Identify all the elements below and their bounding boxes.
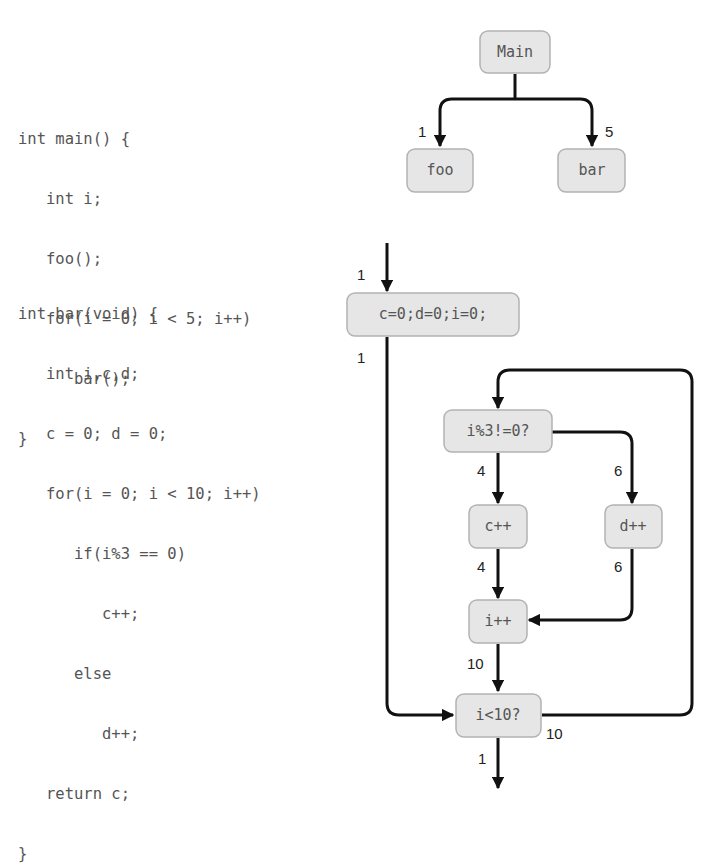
code-line: } — [18, 844, 261, 864]
edge-count-entry: 1 — [357, 266, 365, 283]
node-inc-i: i++ — [469, 600, 527, 643]
node-cond-mod: i%3!=0? — [444, 410, 552, 452]
edge-count-mod-c: 4 — [477, 462, 485, 479]
cfg-edge-init-cond — [387, 337, 453, 715]
node-init: c=0;d=0;i=0; — [347, 293, 519, 336]
edge-count-inc-cond: 10 — [467, 655, 484, 672]
edge-count-init-cond: 1 — [357, 349, 365, 366]
call-edge-main-bar — [515, 99, 592, 146]
node-label: c++ — [484, 517, 511, 535]
node-label: foo — [426, 161, 453, 179]
node-label: i<10? — [475, 706, 520, 724]
node-main: Main — [480, 31, 550, 73]
node-label: bar — [578, 161, 605, 179]
node-label: d++ — [619, 517, 646, 535]
node-cond-loop: i<10? — [456, 694, 541, 737]
node-bar: bar — [558, 149, 625, 192]
node-label: c=0;d=0;i=0; — [379, 305, 487, 323]
node-foo: foo — [407, 149, 473, 192]
edge-count-c-i: 4 — [477, 558, 485, 575]
node-inc-d: d++ — [605, 505, 662, 548]
node-label: Main — [497, 43, 533, 61]
edge-count-exit: 1 — [478, 750, 486, 767]
edge-count-mod-d: 6 — [614, 462, 622, 479]
node-label: i%3!=0? — [466, 422, 529, 440]
call-edge-main-foo — [440, 99, 515, 146]
edge-count-main-bar: 5 — [605, 123, 613, 140]
edge-count-loop-back: 10 — [546, 725, 563, 742]
control-flow-graph: 1 1 10 4 6 4 6 10 1 c=0;d=0;i=0; — [347, 243, 692, 788]
edge-count-d-i: 6 — [614, 558, 622, 575]
node-label: i++ — [484, 612, 511, 630]
edge-count-main-foo: 1 — [418, 123, 426, 140]
node-inc-c: c++ — [469, 505, 527, 548]
call-graph: 1 5 Main foo bar — [407, 31, 625, 192]
